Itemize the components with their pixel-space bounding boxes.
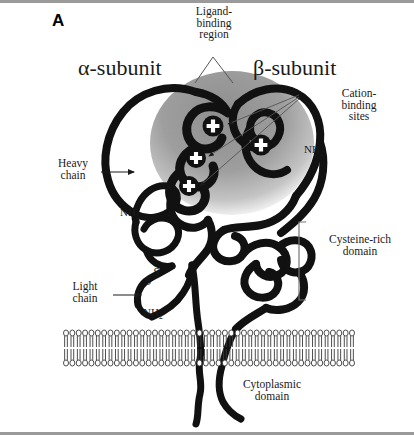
lipid-molecule [95,330,100,347]
lipid-molecule [127,349,132,366]
cation-binding-site-3 [179,176,199,196]
lipid-molecule [216,330,221,347]
lipid-molecule [267,330,272,347]
lipid-molecule [108,349,113,366]
lipid-molecule [324,349,329,366]
lipid-molecule [102,349,107,366]
lipid-molecule [184,349,189,366]
lipid-molecule [70,349,75,366]
lipid-molecule [102,330,107,347]
lipid-molecule [184,330,189,347]
lipid-molecule [350,330,355,347]
lipid-molecule [330,330,335,347]
lipid-molecule [318,349,323,366]
lipid-molecule [216,349,221,366]
lipid-molecule [254,349,259,366]
lipid-molecule [235,349,240,366]
lipid-molecule [114,349,119,366]
lipid-molecule [64,349,69,366]
alpha-subunit-label: α-subunit [78,57,162,79]
lipid-molecule [273,330,278,347]
lipid-molecule [318,330,323,347]
lipid-molecule [229,349,234,366]
lipid-molecule [267,349,272,366]
lipid-molecule [311,349,316,366]
lipid-molecule [203,330,208,347]
lipid-molecule [89,330,94,347]
lipid-molecule [343,349,348,366]
receptor-diagram-svg [0,0,414,435]
lipid-molecule [299,349,304,366]
lipid-molecule [261,330,266,347]
lipid-molecule [210,349,215,366]
nh2-text: NH [304,143,320,155]
nh2-terminus-alpha-heavy: NH2 [120,207,140,221]
lipid-molecule [191,330,196,347]
nh2-subscript: 2 [136,212,140,221]
lipid-molecule [178,330,183,347]
bilayer-outer-leaflet [64,330,355,347]
lipid-molecule [133,349,138,366]
lipid-molecule [64,330,69,347]
lipid-molecule [305,349,310,366]
lipid-molecule [165,330,170,347]
lipid-molecule [286,330,291,347]
beta-subunit-label: β-subunit [253,57,336,79]
lipid-molecule [140,330,145,347]
cation-binding-site-4 [251,135,272,156]
lipid-molecule [140,349,145,366]
heavy-chain-label: Heavy chain [45,158,101,181]
lipid-molecule [191,349,196,366]
light-chain-label: Light chain [57,281,113,304]
lipid-molecule [286,349,291,366]
phospholipid-bilayer [64,330,355,366]
lipid-molecule [76,330,81,347]
lipid-molecule [159,349,164,366]
cation-binding-site-2 [186,148,206,168]
lipid-molecule [330,349,335,366]
disulfide-s-lower: S [145,275,151,287]
cysteine-rich-domain-loops [213,230,311,329]
lipid-molecule [152,349,157,366]
lipid-molecule [235,330,240,347]
cation-binding-site-1 [203,116,224,137]
nh2-subscript: 2 [159,312,163,321]
lipid-molecule [159,330,164,347]
disulfide-s-upper: S [153,266,159,278]
lipid-molecule [121,330,126,347]
lipid-molecule [248,349,253,366]
lipid-molecule [95,349,100,366]
bilayer-inner-leaflet [64,349,355,366]
lipid-molecule [305,330,310,347]
nh2-text: NH [143,306,159,318]
lipid-molecule [273,349,278,366]
lipid-molecule [127,330,132,347]
lipid-molecule [241,330,246,347]
lipid-molecule [280,349,285,366]
cysteine-rich-domain-label: Cysteine-rich domain [310,234,410,257]
figure-panel: A α-subunit β-subunit Ligand- binding re… [0,0,414,435]
nh2-terminus-light-chain: NH2 [143,307,163,321]
lipid-molecule [337,349,342,366]
lipid-molecule [241,349,246,366]
lipid-molecule [261,349,266,366]
lipid-molecule [146,349,151,366]
lipid-molecule [337,330,342,347]
lipid-molecule [210,330,215,347]
nh2-terminus-beta: NH2 [304,144,324,158]
lipid-molecule [343,330,348,347]
lipid-molecule [89,349,94,366]
lipid-molecule [133,330,138,347]
lipid-molecule [292,349,297,366]
nh2-text: NH [120,206,136,218]
lipid-molecule [76,349,81,366]
lipid-molecule [121,349,126,366]
lipid-molecule [152,330,157,347]
lipid-molecule [70,330,75,347]
lipid-molecule [83,330,88,347]
lipid-molecule [114,330,119,347]
lipid-molecule [280,330,285,347]
lipid-molecule [172,330,177,347]
cation-binding-sites-label: Cation- binding sites [318,88,400,123]
nh2-subscript: 2 [320,149,324,158]
